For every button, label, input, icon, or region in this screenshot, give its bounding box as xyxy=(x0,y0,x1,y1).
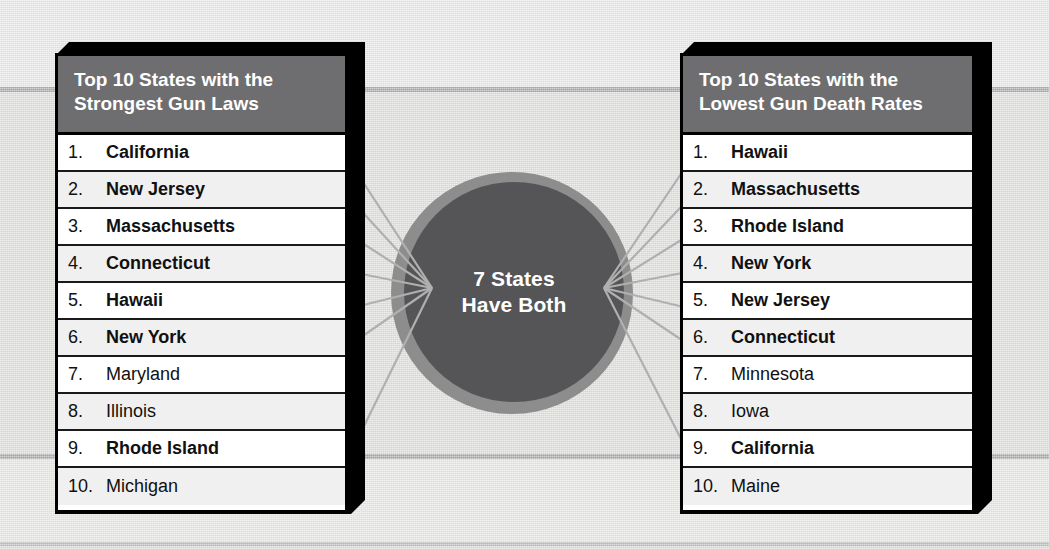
list-item-state: Rhode Island xyxy=(106,438,219,459)
list-item: 9.California xyxy=(683,431,972,468)
list-item-state: Hawaii xyxy=(106,290,163,311)
list-item-state: Maine xyxy=(731,476,780,497)
list-item: 2.New Jersey xyxy=(58,172,345,209)
center-callout-line1: 7 States xyxy=(473,266,554,292)
list-item: 10.Michigan xyxy=(58,468,345,505)
list-item-rank: 4. xyxy=(693,253,731,274)
list-item-rank: 5. xyxy=(68,290,106,311)
list-item-state: Rhode Island xyxy=(731,216,844,237)
panel-left-list: 1.California2.New Jersey3.Massachusetts4… xyxy=(58,135,345,505)
list-item-rank: 9. xyxy=(693,438,731,459)
list-item-state: Maryland xyxy=(106,364,180,385)
list-item-rank: 1. xyxy=(68,142,106,163)
list-item-rank: 2. xyxy=(68,179,106,200)
center-callout-line2: Have Both xyxy=(462,292,567,318)
panel-right-title-line1: Top 10 States with the xyxy=(699,68,958,92)
list-item-rank: 5. xyxy=(693,290,731,311)
panel-left-body: Top 10 States with the Strongest Gun Law… xyxy=(55,53,348,513)
list-item: 4.Connecticut xyxy=(58,246,345,283)
list-item-state: California xyxy=(106,142,189,163)
list-item-state: New Jersey xyxy=(731,290,830,311)
list-item-rank: 8. xyxy=(693,401,731,422)
panel-right-list: 1.Hawaii2.Massachusetts3.Rhode Island4.N… xyxy=(683,135,972,505)
list-item-state: Iowa xyxy=(731,401,769,422)
list-item: 8.Iowa xyxy=(683,394,972,431)
list-item: 1.California xyxy=(58,135,345,172)
center-callout: 7 States Have Both xyxy=(404,182,624,402)
list-item-state: Minnesota xyxy=(731,364,814,385)
list-item-state: Connecticut xyxy=(106,253,210,274)
list-item-rank: 3. xyxy=(693,216,731,237)
list-item-rank: 6. xyxy=(693,327,731,348)
panel-lowest-gun-death-rates: Top 10 States with the Lowest Gun Death … xyxy=(680,42,992,514)
panel-right-body: Top 10 States with the Lowest Gun Death … xyxy=(680,53,975,513)
list-item: 9.Rhode Island xyxy=(58,431,345,468)
list-item-rank: 6. xyxy=(68,327,106,348)
list-item: 7.Maryland xyxy=(58,357,345,394)
list-item-rank: 2. xyxy=(693,179,731,200)
list-item-state: California xyxy=(731,438,814,459)
list-item: 7.Minnesota xyxy=(683,357,972,394)
list-item-rank: 10. xyxy=(693,476,731,497)
list-item-rank: 10. xyxy=(68,476,106,497)
panel-right-header: Top 10 States with the Lowest Gun Death … xyxy=(683,56,972,135)
list-item-state: New York xyxy=(106,327,186,348)
list-item-rank: 7. xyxy=(68,364,106,385)
list-item-state: Connecticut xyxy=(731,327,835,348)
panel-right-title-line2: Lowest Gun Death Rates xyxy=(699,92,958,116)
list-item: 5.Hawaii xyxy=(58,283,345,320)
list-item: 10.Maine xyxy=(683,468,972,505)
list-item-state: Massachusetts xyxy=(106,216,235,237)
list-item-state: Massachusetts xyxy=(731,179,860,200)
panel-left-title-line2: Strongest Gun Laws xyxy=(74,92,331,116)
list-item-rank: 7. xyxy=(693,364,731,385)
list-item-state: New Jersey xyxy=(106,179,205,200)
list-item: 5.New Jersey xyxy=(683,283,972,320)
list-item: 1.Hawaii xyxy=(683,135,972,172)
list-item: 6.Connecticut xyxy=(683,320,972,357)
list-item: 6.New York xyxy=(58,320,345,357)
panel-left-title-line1: Top 10 States with the xyxy=(74,68,331,92)
list-item-state: Illinois xyxy=(106,401,156,422)
list-item-rank: 9. xyxy=(68,438,106,459)
list-item-state: Hawaii xyxy=(731,142,788,163)
panel-strongest-gun-laws: Top 10 States with the Strongest Gun Law… xyxy=(55,42,365,514)
list-item-rank: 8. xyxy=(68,401,106,422)
list-item-rank: 3. xyxy=(68,216,106,237)
list-item-state: Michigan xyxy=(106,476,178,497)
background-rule-footer xyxy=(0,542,1049,546)
list-item-state: New York xyxy=(731,253,811,274)
list-item: 2.Massachusetts xyxy=(683,172,972,209)
panel-left-header: Top 10 States with the Strongest Gun Law… xyxy=(58,56,345,135)
list-item: 4.New York xyxy=(683,246,972,283)
list-item: 3.Massachusetts xyxy=(58,209,345,246)
list-item-rank: 1. xyxy=(693,142,731,163)
list-item: 3.Rhode Island xyxy=(683,209,972,246)
infographic-canvas: 7 States Have Both Top 10 States with th… xyxy=(0,0,1049,549)
list-item: 8.Illinois xyxy=(58,394,345,431)
list-item-rank: 4. xyxy=(68,253,106,274)
